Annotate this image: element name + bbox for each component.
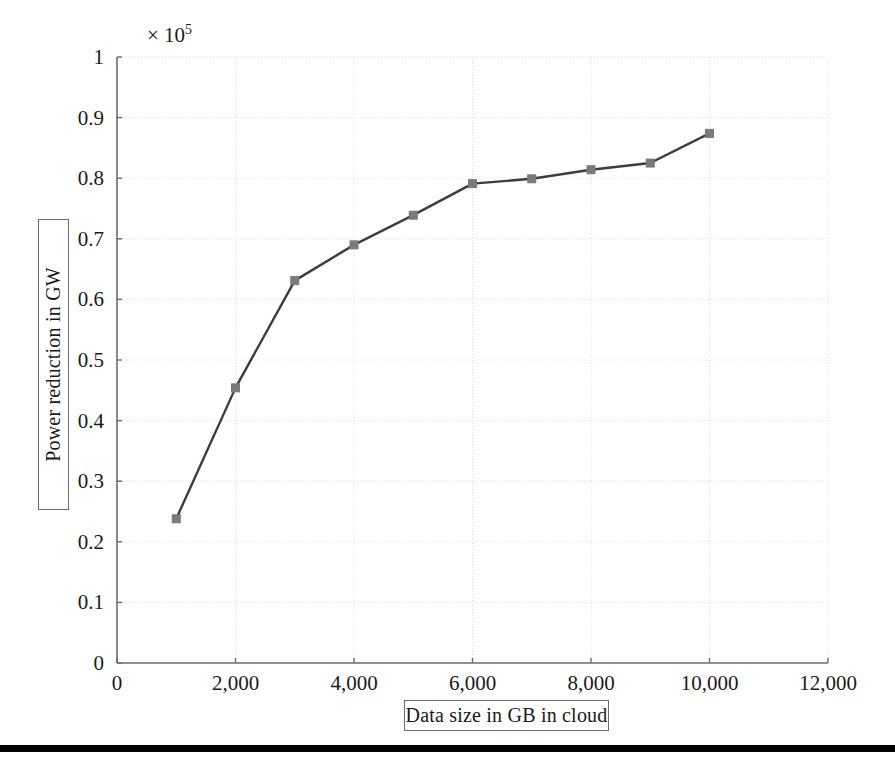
- x-tick-label: 10,000: [681, 671, 739, 695]
- x-tick-label: 2,000: [212, 671, 259, 695]
- y-axis-title: Power reduction in GW: [38, 219, 69, 510]
- y-tick-label: 0.5: [78, 348, 104, 372]
- x-tick-label: 0: [112, 671, 123, 695]
- y-tick-label: 0: [94, 651, 105, 675]
- y-tick-label: 0.4: [78, 409, 105, 433]
- data-point-marker: [528, 175, 536, 183]
- grid-lines: [117, 57, 828, 663]
- x-tick-label: 6,000: [449, 671, 496, 695]
- data-point-marker: [646, 159, 654, 167]
- data-point-marker: [587, 166, 595, 174]
- y-axis-exponent-label: × 105: [147, 22, 192, 47]
- line-chart-canvas: 00.10.20.30.40.50.60.70.80.91 02,0004,00…: [0, 0, 895, 775]
- x-axis-title: Data size in GB in cloud: [404, 700, 609, 731]
- y-tick-label: 0.7: [78, 227, 104, 251]
- x-tick-label: 8,000: [567, 671, 614, 695]
- data-point-marker: [172, 515, 180, 523]
- data-point-marker: [469, 180, 477, 188]
- data-series-line: [176, 133, 709, 518]
- y-tick-label: 0.8: [78, 166, 104, 190]
- y-tick-label: 0.2: [78, 530, 104, 554]
- exponent-text: × 105: [147, 22, 192, 47]
- data-point-marker: [409, 211, 417, 219]
- y-tick-label: 1: [94, 45, 105, 69]
- data-point-marker: [706, 129, 714, 137]
- y-tick-label: 0.3: [78, 469, 104, 493]
- x-axis-tick-labels: 02,0004,0006,0008,00010,00012,000: [112, 671, 857, 695]
- y-tick-label: 0.6: [78, 287, 104, 311]
- y-tick-label: 0.9: [78, 106, 104, 130]
- page-footer-rule: [0, 745, 895, 752]
- x-tick-label: 12,000: [799, 671, 857, 695]
- y-axis-tick-labels: 00.10.20.30.40.50.60.70.80.91: [78, 45, 105, 675]
- x-tick-label: 4,000: [330, 671, 377, 695]
- data-point-markers: [172, 129, 713, 522]
- chart-figure: 00.10.20.30.40.50.60.70.80.91 02,0004,00…: [0, 0, 895, 775]
- y-tick-label: 0.1: [78, 590, 104, 614]
- page-footer-rule-gap: [0, 752, 895, 754]
- data-point-marker: [291, 277, 299, 285]
- data-point-marker: [232, 384, 240, 392]
- data-point-marker: [350, 241, 358, 249]
